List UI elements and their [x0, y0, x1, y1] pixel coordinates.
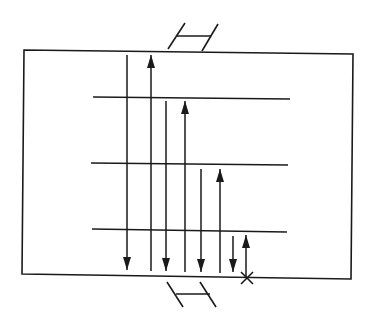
horizontal-line-2	[91, 163, 288, 165]
ray-3	[162, 101, 170, 271]
arrow-up-icon	[147, 55, 155, 68]
arrow-up-icon	[242, 235, 250, 248]
ray-1	[123, 55, 131, 270]
arrow-up-icon	[216, 169, 224, 182]
arrow-down-icon	[162, 258, 170, 271]
ladder-symbols	[167, 23, 218, 307]
ray-4	[181, 101, 189, 272]
top-ladder-icon	[168, 23, 218, 51]
arrow-down-icon	[197, 259, 205, 272]
horizontal-line-1	[93, 97, 290, 99]
ray-7	[229, 236, 237, 272]
reflection-diagram	[0, 0, 369, 326]
arrow-down-icon	[123, 257, 131, 270]
ray-6	[216, 169, 224, 273]
bottom-ladder-icon	[167, 282, 216, 307]
arrow-up-icon	[181, 101, 189, 114]
rays	[123, 55, 250, 278]
ray-8	[242, 235, 250, 278]
horizontal-lines	[91, 97, 290, 232]
right-leg	[202, 24, 218, 51]
arrow-down-icon	[229, 259, 237, 272]
ray-5	[197, 169, 205, 272]
horizontal-line-3	[92, 229, 287, 232]
